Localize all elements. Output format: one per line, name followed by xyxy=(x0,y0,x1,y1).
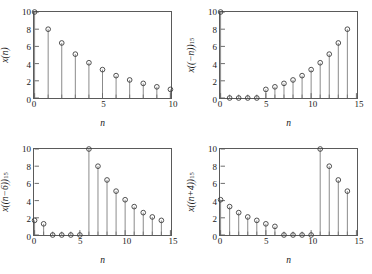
x-axis-label: n xyxy=(219,118,358,128)
x-tick-label: 0 xyxy=(218,235,223,246)
y-tick-label: 4 xyxy=(27,60,35,69)
y-axis-label-sub: 15 xyxy=(2,172,9,179)
y-axis-label-main: x((−n)) xyxy=(186,44,196,72)
y-tick-label: 8 xyxy=(213,162,221,171)
stem-canvas xyxy=(220,12,357,98)
y-tick-label: 10 xyxy=(22,145,34,154)
y-tick-label: 2 xyxy=(27,215,35,224)
y-tick-label: 6 xyxy=(27,180,35,189)
y-tick-label: 2 xyxy=(213,215,221,224)
y-tick-label: 6 xyxy=(27,43,35,52)
panel-top-left: x(n) 02468100510 n xyxy=(0,0,186,137)
y-axis-label: x((n−6))15 xyxy=(0,148,12,236)
y-tick-label: 2 xyxy=(213,78,221,87)
x-tick-label: 15 xyxy=(355,98,364,109)
y-tick-label: 4 xyxy=(27,197,35,206)
x-tick-label: 10 xyxy=(122,235,131,246)
stem-canvas xyxy=(34,149,171,235)
y-tick-label: 10 xyxy=(22,8,34,17)
y-axis-label: x(n) xyxy=(0,11,12,99)
y-tick-label: 4 xyxy=(213,197,221,206)
plot-area: 0246810051015 xyxy=(33,148,172,236)
plot-area: 0246810051015 xyxy=(219,148,358,236)
y-axis-label: x((−n))15 xyxy=(184,11,198,99)
x-tick-label: 0 xyxy=(32,235,37,246)
panel-bottom-right: x((n+4))15 0246810051015 n xyxy=(186,137,372,274)
x-tick-label: 15 xyxy=(169,235,178,246)
x-tick-label: 10 xyxy=(169,98,178,109)
y-tick-label: 6 xyxy=(213,43,221,52)
y-tick-label: 10 xyxy=(208,8,220,17)
x-axis-label: n xyxy=(33,118,172,128)
x-tick-label: 10 xyxy=(308,235,317,246)
y-tick-label: 2 xyxy=(27,78,35,87)
y-axis-label: x((n+4))15 xyxy=(184,148,198,236)
y-axis-label-main: x(n) xyxy=(0,47,10,62)
y-axis-label-sub: 15 xyxy=(188,172,195,179)
panel-top-right: x((−n))15 0246810051015 n xyxy=(186,0,372,137)
x-tick-label: 5 xyxy=(101,98,106,109)
x-tick-label: 5 xyxy=(78,235,83,246)
y-tick-label: 6 xyxy=(213,180,221,189)
x-axis-label: n xyxy=(33,255,172,265)
x-tick-label: 0 xyxy=(32,98,37,109)
stem-canvas xyxy=(34,12,171,98)
y-axis-label-sub: 15 xyxy=(188,38,195,45)
x-tick-label: 5 xyxy=(264,98,269,109)
stem-plot-figure: x(n) 02468100510 n x((−n))15 02468100510… xyxy=(0,0,372,274)
y-tick-label: 8 xyxy=(27,162,35,171)
plot-area: 0246810051015 xyxy=(219,11,358,99)
x-tick-label: 0 xyxy=(218,98,223,109)
y-tick-label: 4 xyxy=(213,60,221,69)
y-axis-label-main: x((n+4)) xyxy=(186,179,196,212)
y-tick-label: 8 xyxy=(27,25,35,34)
x-axis-label: n xyxy=(219,255,358,265)
panel-bottom-left: x((n−6))15 0246810051015 n xyxy=(0,137,186,274)
y-axis-label-main: x((n−6)) xyxy=(0,179,10,212)
x-tick-label: 15 xyxy=(355,235,364,246)
plot-area: 02468100510 xyxy=(33,11,172,99)
y-tick-label: 8 xyxy=(213,25,221,34)
x-tick-label: 5 xyxy=(264,235,269,246)
x-tick-label: 10 xyxy=(308,98,317,109)
y-tick-label: 10 xyxy=(208,145,220,154)
stem-canvas xyxy=(220,149,357,235)
